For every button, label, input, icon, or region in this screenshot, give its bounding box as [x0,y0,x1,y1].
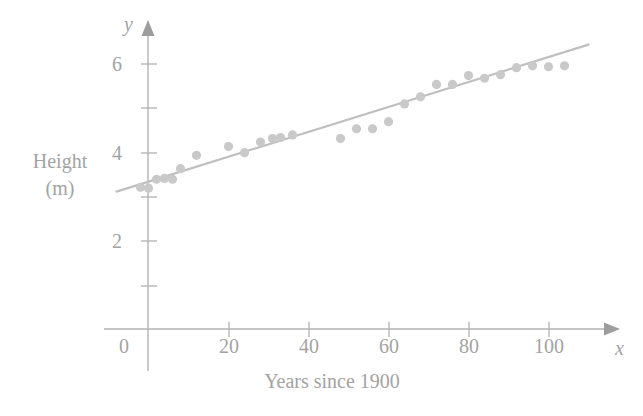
data-point [544,62,553,71]
data-point [400,99,409,108]
data-point [268,134,277,143]
data-point [224,142,233,151]
data-point [384,117,393,126]
data-point [560,61,569,70]
data-point [288,130,297,139]
data-point [416,92,425,101]
data-point [352,124,361,133]
x-tick-label-60: 60 [367,336,411,356]
x-tick-label-80: 80 [447,336,491,356]
data-point [136,183,145,192]
x-axis-arrow-icon [604,323,620,336]
data-point [192,151,201,160]
data-point [368,124,377,133]
data-point [448,80,457,89]
y-axis-name-label: y [124,14,133,34]
y-axis-title: Height (m) [18,148,102,202]
data-point [432,80,441,89]
data-point [528,61,537,70]
x-axis-name-label: x [615,338,624,358]
x-axis-title: Years since 1900 [212,371,452,391]
data-point [240,148,249,157]
x-tick-label-0: 0 [110,336,138,356]
data-point [496,70,505,79]
data-point [480,74,489,83]
y-axis-arrow-icon [142,20,155,36]
data-point [512,63,521,72]
chart-figure: 0 20 40 60 80 100 2 4 6 y x Height (m) Y… [0,0,643,416]
y-axis-title-line-2: (m) [18,175,102,202]
scatter-points-group [136,61,569,192]
data-point [144,184,153,193]
x-tick-label-100: 100 [522,336,576,356]
data-point [336,134,345,143]
data-point [176,164,185,173]
data-point [160,174,169,183]
data-point [152,175,161,184]
x-tick-label-40: 40 [287,336,331,356]
axes-group [104,20,620,371]
y-tick-label-4: 4 [104,143,130,163]
y-tick-label-6: 6 [104,54,130,74]
y-tick-marks [141,64,157,286]
data-point [256,137,265,146]
y-tick-label-2: 2 [104,231,130,251]
data-point [464,71,473,80]
data-point [168,175,177,184]
x-tick-label-20: 20 [207,336,251,356]
y-axis-title-line-1: Height [18,148,102,175]
data-point [276,133,285,142]
